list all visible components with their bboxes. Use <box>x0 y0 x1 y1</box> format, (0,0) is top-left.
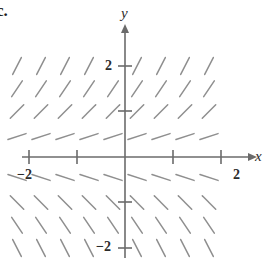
slope-mark <box>106 196 119 209</box>
slope-mark <box>85 240 94 257</box>
slope-mark <box>36 217 47 233</box>
slope-mark <box>12 217 23 233</box>
x-axis-label: x <box>255 149 262 164</box>
axes-group <box>22 24 257 258</box>
slope-mark <box>108 81 119 97</box>
slope-mark <box>132 217 143 233</box>
slope-mark <box>56 175 74 181</box>
slope-mark <box>32 134 50 140</box>
slope-mark <box>8 134 26 140</box>
slope-mark <box>82 196 95 209</box>
slope-mark <box>130 105 143 118</box>
slope-mark <box>56 134 74 140</box>
slope-mark <box>80 134 98 140</box>
slope-mark <box>106 105 119 118</box>
slope-mark <box>84 217 95 233</box>
slope-mark <box>176 134 194 140</box>
slope-mark <box>202 105 215 118</box>
slope-mark <box>34 105 47 118</box>
slope-mark <box>34 196 47 209</box>
slope-mark <box>84 81 95 97</box>
slope-mark <box>202 196 215 209</box>
slope-mark <box>178 196 191 209</box>
slope-mark <box>181 58 190 75</box>
slope-mark <box>154 196 167 209</box>
slope-mark <box>61 58 70 75</box>
slope-mark <box>204 217 215 233</box>
slope-mark <box>108 217 119 233</box>
slope-mark <box>154 105 167 118</box>
slope-mark <box>58 105 71 118</box>
slope-mark <box>205 58 214 75</box>
slope-mark <box>32 175 50 181</box>
slope-mark <box>157 240 166 257</box>
slope-mark <box>60 81 71 97</box>
slope-mark <box>180 217 191 233</box>
slope-mark <box>36 81 47 97</box>
slope-mark <box>128 175 146 181</box>
slope-mark <box>13 240 22 257</box>
slope-mark <box>200 134 218 140</box>
slope-mark <box>180 81 191 97</box>
slope-mark <box>10 105 23 118</box>
slope-mark <box>156 81 167 97</box>
slope-mark <box>178 105 191 118</box>
slope-field-plot <box>0 0 273 269</box>
y-axis-label: y <box>121 6 128 21</box>
slope-mark <box>104 134 122 140</box>
slope-mark <box>12 81 23 97</box>
slope-mark <box>157 58 166 75</box>
slope-mark <box>13 58 22 75</box>
slope-mark <box>130 196 143 209</box>
slope-mark <box>181 240 190 257</box>
slope-mark <box>152 134 170 140</box>
slope-mark <box>128 134 146 140</box>
y-axis-arrowhead <box>121 24 129 33</box>
slope-mark <box>10 196 23 209</box>
slope-mark <box>156 217 167 233</box>
slope-mark <box>200 175 218 181</box>
slope-mark <box>61 240 70 257</box>
slope-mark <box>85 58 94 75</box>
y-tick-label-neg2: −2 <box>96 240 111 254</box>
slope-mark <box>104 175 122 181</box>
slope-mark <box>133 58 142 75</box>
slope-mark <box>37 240 46 257</box>
y-tick-label-pos2: 2 <box>105 59 112 73</box>
slope-mark <box>176 175 194 181</box>
slope-mark <box>80 175 98 181</box>
slope-mark <box>82 105 95 118</box>
slope-mark <box>37 58 46 75</box>
slope-mark <box>205 240 214 257</box>
x-tick-label-pos2: 2 <box>233 168 240 182</box>
slope-mark <box>132 81 143 97</box>
slope-field-figure: c. y x −2 2 2 −2 <box>0 0 273 269</box>
x-tick-label-neg2: −2 <box>17 168 32 182</box>
slope-mark <box>60 217 71 233</box>
slope-mark <box>133 240 142 257</box>
slope-mark <box>58 196 71 209</box>
slope-mark <box>204 81 215 97</box>
slope-mark <box>152 175 170 181</box>
